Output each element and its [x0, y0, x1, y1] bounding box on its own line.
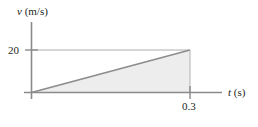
x-axis-label-units: (s): [231, 86, 245, 98]
y-axis-label: v (m/s): [17, 6, 48, 17]
x-axis-label: t (s): [228, 87, 245, 98]
velocity-time-graph-figure: v (m/s) t (s) 20 0.3: [0, 0, 258, 127]
x-axis-tick-label-0-3: 0.3: [182, 101, 196, 112]
y-axis-tick-label-20: 20: [8, 45, 19, 56]
y-axis-label-units: (m/s): [22, 5, 48, 17]
plot-area: [0, 0, 258, 127]
